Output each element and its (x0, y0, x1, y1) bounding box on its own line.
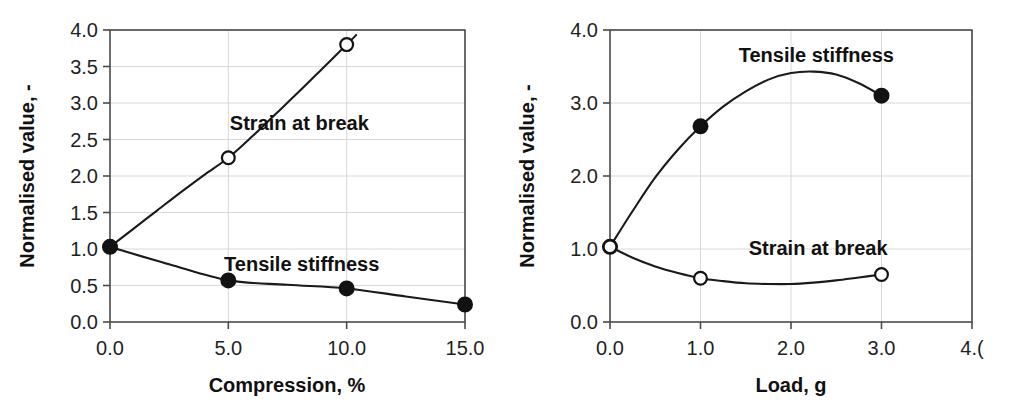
y-tick-label: 4.0 (70, 19, 98, 41)
x-axis-title-right: Load, g (755, 374, 826, 396)
series-annotation-0: Strain at break (230, 112, 370, 134)
x-tick-label: 10.0 (327, 337, 366, 359)
series-annotation-1: Tensile stiffness (224, 253, 379, 275)
y-tick-label: 1.5 (70, 202, 98, 224)
x-tick-label: 0.0 (596, 337, 624, 359)
marker-open-1-0 (604, 240, 617, 253)
y-tick-label: 0.0 (570, 311, 598, 333)
y-tick-labels-right: 0.01.02.03.04.0 (570, 19, 598, 333)
chart-panel-compression: 0.00.51.01.52.02.53.03.54.0 0.05.010.015… (0, 0, 505, 413)
marker-filled-1-0 (103, 240, 117, 254)
marker-filled-1-2 (339, 281, 353, 295)
load-plot-svg: 0.01.02.03.04.0 0.01.02.03.04.( Tensile … (505, 0, 1010, 413)
series-curve-0 (610, 72, 882, 247)
y-axis-title-right: Normalised value, - (516, 84, 538, 267)
marker-filled-1-1 (221, 273, 235, 287)
x-tick-label: 4.( (960, 337, 984, 359)
y-axis-title-left: Normalised value, - (16, 84, 38, 267)
x-tick-label: 3.0 (868, 337, 896, 359)
y-tick-label: 1.0 (70, 238, 98, 260)
series-annotations-left: Strain at breakTensile stiffness (224, 112, 379, 274)
gridlines-left (110, 30, 465, 322)
series-annotations-right: Tensile stiffnessStrain at break (739, 44, 894, 259)
x-tick-label: 5.0 (214, 337, 242, 359)
marker-open-0-2 (340, 38, 353, 51)
series-annotation-0: Tensile stiffness (739, 44, 894, 66)
marker-filled-1-3 (458, 297, 472, 311)
marker-open-1-2 (875, 268, 888, 281)
y-tick-labels-left: 0.00.51.01.52.02.53.03.54.0 (70, 19, 98, 333)
compression-plot-svg: 0.00.51.01.52.02.53.03.54.0 0.05.010.015… (0, 0, 505, 413)
series-annotation-1: Strain at break (749, 237, 889, 259)
chart-panel-load: 0.01.02.03.04.0 0.01.02.03.04.( Tensile … (505, 0, 1010, 413)
y-tick-label: 4.0 (570, 19, 598, 41)
x-axis-title-left: Compression, % (209, 374, 366, 396)
x-tick-label: 0.0 (96, 337, 124, 359)
y-tick-label: 2.5 (70, 129, 98, 151)
marker-filled-0-1 (693, 119, 707, 133)
marker-filled-0-2 (874, 89, 888, 103)
y-tick-label: 0.0 (70, 311, 98, 333)
y-tick-label: 0.5 (70, 275, 98, 297)
y-tick-label: 2.0 (70, 165, 98, 187)
marker-open-0-1 (222, 151, 235, 164)
x-tick-labels-right: 0.01.02.03.04.( (596, 337, 984, 359)
x-tick-label: 2.0 (777, 337, 805, 359)
marker-open-1-1 (694, 272, 707, 285)
y-tick-label: 1.0 (570, 238, 598, 260)
y-tick-label: 2.0 (570, 165, 598, 187)
y-tick-label: 3.0 (70, 92, 98, 114)
x-tick-label: 1.0 (687, 337, 715, 359)
x-tick-label: 15.0 (446, 337, 485, 359)
figure-container: 0.00.51.01.52.02.53.03.54.0 0.05.010.015… (0, 0, 1010, 413)
y-tick-label: 3.0 (570, 92, 598, 114)
y-tick-label: 3.5 (70, 56, 98, 78)
x-tick-labels-left: 0.05.010.015.0 (96, 337, 484, 359)
